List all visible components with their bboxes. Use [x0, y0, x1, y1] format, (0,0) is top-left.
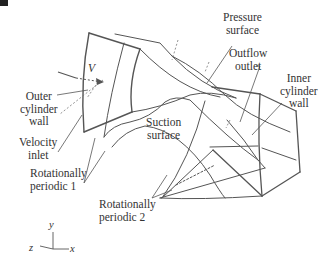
label-line: Suction — [146, 116, 181, 129]
leader-velocity-inlet — [58, 115, 82, 152]
label-velocity-inlet: Velocity inlet — [19, 136, 57, 161]
label-rotationally-periodic-1: Rotationally periodic 1 — [30, 167, 87, 192]
label-line: outlet — [229, 60, 267, 73]
label-line: wall — [280, 97, 318, 110]
label-line: surface — [146, 129, 181, 142]
axis-label-z: z — [29, 242, 33, 255]
label-line: periodic 2 — [99, 211, 156, 224]
label-line: Rotationally — [30, 167, 87, 180]
label-line: Pressure — [223, 11, 262, 24]
label-outer-cylinder-wall: Outer cylinder wall — [20, 90, 58, 128]
label-outflow-outlet: Outflow outlet — [229, 47, 267, 72]
inlet-face-outline — [83, 33, 89, 132]
velocity-solid-arrow — [58, 72, 76, 78]
label-line: inlet — [19, 149, 57, 162]
label-line: Rotationally — [99, 198, 156, 211]
axis-label-y: y — [49, 219, 54, 232]
leader-periodic-1b — [84, 151, 105, 183]
velocity-arrowhead — [96, 78, 104, 85]
axis-label-x: x — [70, 243, 75, 256]
label-pressure-surface: Pressure surface — [223, 11, 262, 36]
label-line: periodic 1 — [30, 180, 87, 193]
label-line: cylinder — [280, 85, 318, 98]
velocity-symbol: V — [88, 62, 95, 75]
label-line: Outflow — [229, 47, 267, 60]
label-line: surface — [223, 24, 262, 37]
label-suction-surface: Suction surface — [146, 116, 181, 141]
axis-triad — [40, 232, 69, 249]
label-line: wall — [20, 115, 58, 128]
label-line: Velocity — [19, 136, 57, 149]
label-line: Outer — [20, 90, 58, 103]
label-rotationally-periodic-2: Rotationally periodic 2 — [99, 198, 156, 223]
label-line: Inner — [280, 72, 318, 85]
label-line: cylinder — [20, 103, 58, 116]
label-inner-cylinder-wall: Inner cylinder wall — [280, 72, 318, 110]
leader-inner-cylinder-wall — [252, 103, 282, 135]
